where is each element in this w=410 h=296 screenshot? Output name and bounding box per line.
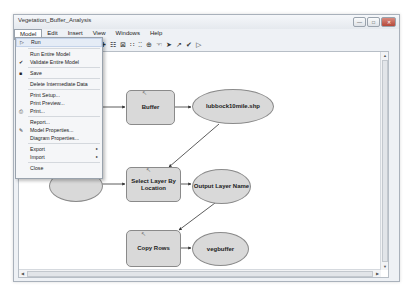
menu-windows[interactable]: Windows — [111, 29, 145, 39]
scroll-down-icon[interactable]: ▼ — [383, 264, 387, 269]
menu-separator — [28, 162, 100, 163]
menu-item-label: Report... — [30, 119, 50, 125]
horizontal-scroll-thumb[interactable] — [27, 271, 373, 277]
validate-icon: ✔ — [19, 58, 23, 66]
menu-item-label: Run — [31, 39, 41, 45]
data-label: vegbuffer — [207, 246, 234, 253]
menu-item-label: Save — [30, 70, 42, 76]
vertical-scroll-thumb[interactable] — [382, 60, 388, 262]
fixed-zoom-out-icon[interactable]: ⁚⁚ — [138, 41, 142, 49]
data-vegbuffer[interactable]: vegbuffer — [192, 232, 249, 266]
menu-item-print-setup[interactable]: Print Setup... — [16, 91, 102, 99]
properties-icon: ✎ — [19, 126, 23, 134]
scroll-right-icon[interactable]: ▶ — [376, 271, 379, 276]
auto-layout-icon[interactable]: ☷ — [110, 41, 116, 49]
run-icon: ▷ — [20, 39, 24, 46]
menu-item-label: Print Setup... — [30, 92, 60, 98]
model-menu-dropdown: ▷Run Run Entire Model ✔Validate Entire M… — [15, 37, 103, 179]
horizontal-scrollbar[interactable]: ◀ ▶ — [19, 269, 381, 277]
menu-item-run-entire-model[interactable]: Run Entire Model — [16, 50, 102, 58]
zoom-in-icon[interactable]: ⊕ — [146, 41, 152, 49]
menu-item-label: Run Entire Model — [30, 51, 70, 57]
menu-item-model-properties[interactable]: ✎Model Properties... — [16, 126, 102, 134]
save-icon: ■ — [19, 69, 22, 77]
minimize-button[interactable]: — — [353, 17, 366, 27]
menu-item-label: Import — [30, 154, 45, 160]
process-label: Copy Rows — [137, 245, 170, 252]
tool-icon: ↖ — [141, 230, 146, 237]
menu-item-delete-intermediate-data[interactable]: Delete Intermediate Data — [16, 80, 102, 88]
close-button[interactable]: ✕ — [381, 17, 396, 27]
print-icon: ⎙ — [19, 107, 23, 115]
connect-icon[interactable]: ↗ — [176, 41, 182, 49]
scroll-left-icon[interactable]: ◀ — [21, 271, 24, 276]
menu-separator — [28, 89, 100, 90]
menu-item-label: Model Properties... — [30, 127, 74, 133]
menu-separator — [28, 143, 100, 144]
process-label: Buffer — [142, 104, 160, 111]
process-copy-rows[interactable]: Copy Rows — [126, 230, 181, 267]
menu-separator — [28, 48, 100, 49]
menu-item-label: Print Preview... — [30, 100, 65, 106]
menu-item-label: Diagram Properties... — [30, 135, 79, 141]
pan-icon[interactable]: ☜ — [156, 41, 162, 49]
menu-item-export[interactable]: Export▸ — [16, 145, 102, 153]
menu-item-print-preview[interactable]: Print Preview... — [16, 99, 102, 107]
select-icon[interactable]: ➤ — [166, 41, 172, 49]
tool-icon: ↖ — [142, 89, 147, 96]
vertical-scrollbar[interactable]: ▲ ▼ — [380, 52, 388, 270]
process-buffer[interactable]: Buffer — [126, 90, 175, 125]
window-title: Vegetation_Buffer_Analysis — [18, 17, 91, 23]
menu-item-label: Delete Intermediate Data — [30, 81, 88, 87]
submenu-arrow-icon: ▸ — [96, 153, 98, 161]
data-label: lubbock10mile.shp — [206, 103, 260, 110]
menu-item-label: Validate Entire Model — [30, 59, 79, 65]
menu-item-label: Print... — [30, 108, 45, 114]
data-label: Output Layer Name — [194, 183, 249, 190]
process-label: Select Layer By Location — [127, 178, 180, 192]
menu-item-report[interactable]: Report... — [16, 118, 102, 126]
menu-item-label: Export — [30, 146, 45, 152]
menu-separator — [28, 116, 100, 117]
menu-item-print[interactable]: ⎙Print... — [16, 107, 102, 115]
menu-separator — [28, 67, 100, 68]
menu-item-run[interactable]: ▷Run — [16, 38, 102, 47]
menu-item-save[interactable]: ■Save — [16, 69, 102, 77]
run-icon[interactable]: ▷ — [196, 41, 201, 49]
full-extent-icon[interactable]: ⊠ — [120, 41, 126, 49]
menu-help[interactable]: Help — [145, 29, 167, 39]
menu-item-import[interactable]: Import▸ — [16, 153, 102, 161]
data-lubbock10mile[interactable]: lubbock10mile.shp — [192, 89, 274, 124]
toolbar: ✚ ☷ ⊠ ∷ ⁚⁚ ⊕ ☜ ➤ ↗ ✔ ▷ — [100, 40, 201, 50]
scroll-up-icon[interactable]: ▲ — [383, 53, 387, 58]
process-select-layer-by-location[interactable]: Select Layer By Location — [126, 167, 181, 202]
menu-item-validate-entire-model[interactable]: ✔Validate Entire Model — [16, 58, 102, 66]
menu-item-diagram-properties[interactable]: Diagram Properties... — [16, 134, 102, 142]
menu-separator — [28, 78, 100, 79]
menu-item-close[interactable]: Close — [16, 164, 102, 172]
tool-icon: ↖ — [146, 166, 151, 173]
fixed-zoom-in-icon[interactable]: ∷ — [130, 41, 134, 49]
submenu-arrow-icon: ▸ — [96, 145, 98, 153]
menu-item-label: Close — [30, 165, 43, 171]
maximize-button[interactable]: □ — [367, 17, 380, 27]
validate-icon[interactable]: ✔ — [186, 41, 192, 49]
title-bar[interactable]: Vegetation_Buffer_Analysis — □ ✕ — [14, 15, 399, 29]
data-output-layer-name[interactable]: Output Layer Name — [192, 169, 251, 204]
